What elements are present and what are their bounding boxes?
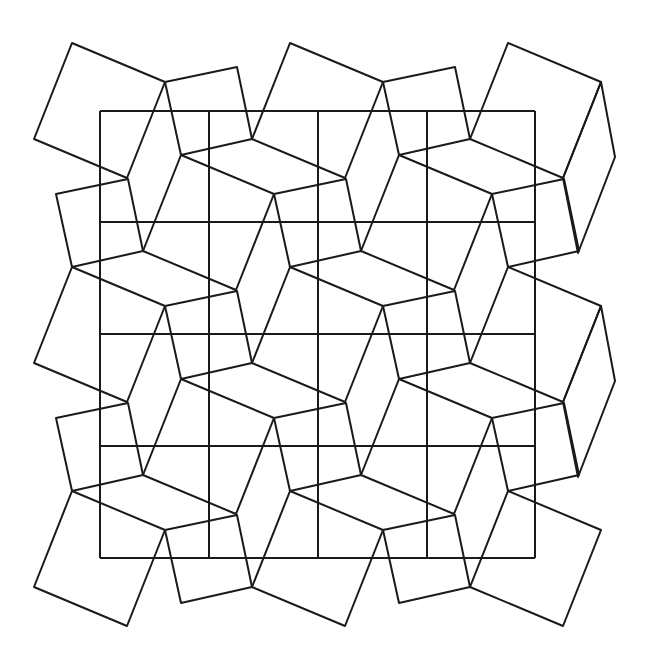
edge-parallelograms xyxy=(563,82,615,477)
tessellation-diagram xyxy=(0,0,658,669)
edge-parallelogram xyxy=(563,82,615,253)
edge-parallelogram xyxy=(563,306,615,477)
square-grid xyxy=(100,111,535,558)
